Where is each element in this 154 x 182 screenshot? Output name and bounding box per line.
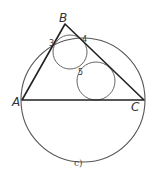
tangent-label-5: 5	[78, 68, 83, 77]
vertex-label-b: B	[59, 11, 67, 25]
geometry-diagram: B A C 3 4 5 c)	[0, 0, 154, 182]
tangent-label-4: 4	[82, 35, 87, 44]
tangent-label-3: 3	[49, 39, 54, 48]
vertex-label-a: A	[11, 95, 20, 109]
vertex-label-c: C	[131, 100, 140, 114]
figure-caption: c)	[74, 158, 83, 168]
